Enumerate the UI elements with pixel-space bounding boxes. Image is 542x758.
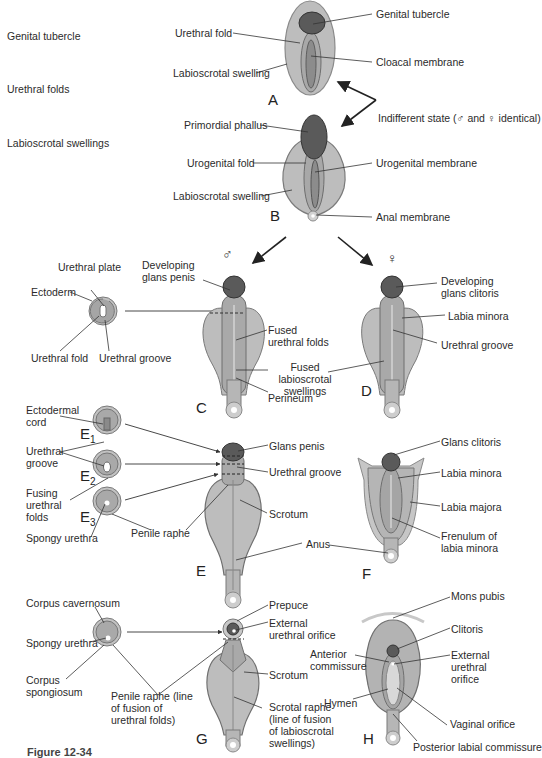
label-h-hymen: Hymen — [324, 697, 357, 709]
label-h-mons-pubis: Mons pubis — [451, 590, 505, 602]
panel-letter-e3: E3 — [80, 508, 96, 528]
label-d-labia-minora: Labia minora — [448, 310, 509, 322]
label-b-urogenital-fold: Urogenital fold — [187, 157, 255, 169]
stage-c-figure — [203, 276, 264, 418]
panel-letter-d: D — [361, 382, 372, 399]
panel-letter-b: B — [270, 207, 280, 224]
side-label-labioscrotal-swellings: Labioscrotal swellings — [7, 137, 109, 149]
label-h-external-urethral-orifice: External urethral orifice — [451, 649, 513, 685]
panel-letter-e2: E2 — [80, 467, 96, 487]
label-g-corpus-cavernosum: Corpus cavernosum — [26, 597, 120, 609]
label-e-penile-raphe: Penile raphe — [131, 527, 190, 539]
side-label-urethral-folds: Urethral folds — [7, 83, 69, 95]
female-symbol-icon: ♀ — [387, 250, 398, 266]
panel-letter-a: A — [268, 91, 278, 108]
label-g-scrotum: Scrotum — [269, 669, 308, 681]
label-h-vaginal-orifice: Vaginal orifice — [450, 718, 515, 730]
stage-f-figure — [358, 453, 424, 563]
label-f-labia-majora: Labia majora — [441, 501, 502, 513]
label-h-anterior-commissure: Anterior commissure — [310, 648, 360, 672]
label-e-urethral-groove: Urethral groove — [269, 466, 341, 478]
panel-letter-e: E — [196, 562, 206, 579]
label-g-spongy-urethra: Spongy urethra — [26, 637, 98, 649]
label-f-frenulum: Frenulum of labia minora — [441, 530, 503, 554]
label-h-clitoris: Clitoris — [451, 623, 483, 635]
label-c-urethral-plate: Urethral plate — [58, 261, 121, 273]
stage-a-figure — [285, 1, 335, 95]
label-c-perineum: Perineum — [268, 392, 313, 404]
label-d-developing-glans-clitoris: Developing glans clitoris — [441, 275, 521, 299]
label-c-developing-glans-penis: Developing glans penis — [142, 259, 198, 283]
panel-letter-g: G — [196, 730, 208, 747]
label-e-fusing-urethral-folds: Fusing urethral folds — [26, 487, 71, 523]
label-g-penile-raphe: Penile raphe (line of fusion of urethral… — [111, 690, 197, 726]
label-c-ectoderm: Ectoderm — [31, 286, 76, 298]
side-label-genital-tubercle: Genital tubercle — [7, 30, 81, 42]
label-b-anal-membrane: Anal membrane — [376, 211, 450, 223]
label-h-posterior-labial-commissure: Posterior labial commissure — [413, 741, 542, 753]
stage-g-figure — [207, 619, 259, 752]
label-c-fused-urethral-folds: Fused urethral folds — [268, 324, 334, 348]
label-a-labioscrotal-swelling: Labioscrotal swelling — [173, 67, 270, 79]
panel-letter-c: C — [196, 399, 207, 416]
stage-h-figure — [362, 614, 424, 746]
label-e-spongy-urethra: Spongy urethra — [26, 532, 98, 544]
panel-letter-h: H — [363, 730, 374, 747]
stage-e-cross-sections — [93, 406, 121, 515]
label-g-corpus-spongiosum: Corpus spongiosum — [26, 674, 81, 698]
label-b-primordial-phallus: Primordial phallus — [184, 119, 267, 131]
male-symbol-icon: ♂ — [222, 246, 233, 262]
label-g-external-urethral-orifice: External urethral orifice — [269, 617, 341, 641]
label-f-glans-clitoris: Glans clitoris — [441, 436, 501, 448]
figure-caption: Figure 12-34 — [27, 746, 92, 758]
label-a-urethral-fold: Urethral fold — [175, 27, 232, 39]
label-c-urethral-fold: Urethral fold — [31, 352, 88, 364]
label-e-scrotum: Scrotum — [269, 508, 308, 520]
label-g-prepuce: Prepuce — [269, 599, 308, 611]
label-d-urethral-groove: Urethral groove — [441, 339, 513, 351]
label-e-anus: Anus — [306, 538, 330, 550]
panel-letter-e1: E1 — [80, 425, 96, 445]
label-a-cloacal-membrane: Cloacal membrane — [376, 56, 464, 68]
stage-e-figure — [205, 443, 261, 608]
label-a-genital-tubercle: Genital tubercle — [376, 8, 450, 20]
label-f-labia-minora: Labia minora — [441, 467, 502, 479]
label-e-ectodermal-cord: Ectodermal cord — [26, 404, 82, 428]
label-e-urethral-groove-left: Urethral groove — [26, 445, 71, 469]
label-b-labioscrotal-swelling: Labioscrotal swelling — [173, 190, 270, 202]
label-indifferent-state: Indifferent state (♂ and ♀ identical) — [378, 112, 541, 124]
label-c-urethral-groove: Urethral groove — [99, 352, 171, 364]
stage-b-figure — [283, 115, 345, 221]
label-e-glans-penis: Glans penis — [269, 440, 324, 452]
panel-letter-f: F — [362, 565, 371, 582]
label-b-urogenital-membrane: Urogenital membrane — [376, 157, 477, 169]
